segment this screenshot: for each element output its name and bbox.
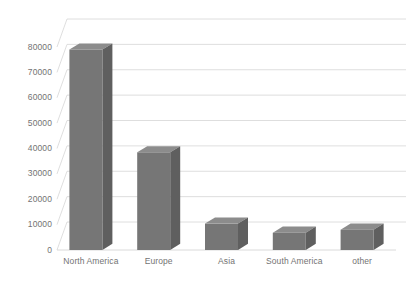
value-axis-tick-label: 0 bbox=[0, 245, 52, 255]
bar-asia[interactable] bbox=[205, 217, 248, 250]
bar-europe[interactable] bbox=[137, 146, 180, 250]
value-axis-labels: 0100002000030000400005000060000700008000… bbox=[0, 0, 52, 286]
value-axis-tick-label: 40000 bbox=[0, 143, 52, 153]
bar-chart: 0100002000030000400005000060000700008000… bbox=[0, 0, 413, 286]
value-axis-tick-label: 20000 bbox=[0, 194, 52, 204]
plot-area bbox=[0, 0, 413, 286]
value-axis-tick-label: 10000 bbox=[0, 219, 52, 229]
chart-canvas bbox=[0, 0, 413, 286]
bar-south-america[interactable] bbox=[273, 227, 316, 250]
value-axis-tick-label: 80000 bbox=[0, 42, 52, 52]
value-axis-tick-label: 30000 bbox=[0, 168, 52, 178]
value-axis-tick-label: 60000 bbox=[0, 92, 52, 102]
value-axis-tick-label: 50000 bbox=[0, 118, 52, 128]
bar-north-america[interactable] bbox=[69, 43, 112, 250]
category-axis-labels: North AmericaEuropeAsiaSouth Americaothe… bbox=[0, 256, 413, 278]
category-axis-tick-label: other bbox=[312, 256, 412, 266]
bar-other[interactable] bbox=[341, 224, 384, 250]
value-axis-tick-label: 70000 bbox=[0, 67, 52, 77]
gridline bbox=[57, 19, 406, 47]
